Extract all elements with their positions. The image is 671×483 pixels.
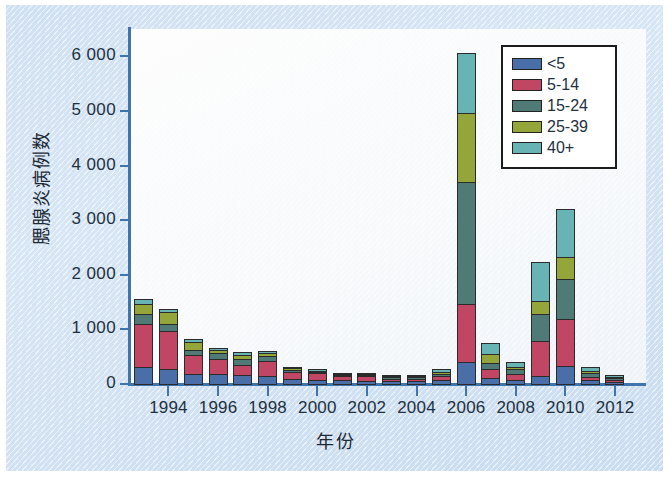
legend-item[interactable]: 5-14 bbox=[512, 75, 607, 95]
bar-segment bbox=[134, 367, 153, 385]
bar-segment bbox=[531, 341, 550, 377]
y-axis-tick bbox=[120, 383, 129, 385]
bar-stack[interactable] bbox=[134, 299, 153, 384]
bar-segment bbox=[556, 279, 575, 320]
bar-segment bbox=[209, 374, 228, 385]
bar-segment bbox=[481, 378, 500, 385]
legend-swatch-icon bbox=[512, 79, 542, 91]
bar-stack[interactable] bbox=[184, 339, 203, 384]
x-axis-title: 年份 bbox=[0, 427, 671, 453]
x-axis-tick bbox=[564, 386, 566, 396]
y-axis-tick bbox=[120, 165, 129, 167]
bar-segment bbox=[605, 382, 624, 385]
legend-swatch-icon bbox=[512, 121, 542, 133]
bar-segment bbox=[184, 355, 203, 375]
y-axis-tick bbox=[120, 328, 129, 330]
legend-item[interactable]: 15-24 bbox=[512, 96, 607, 116]
figure-root: 01 0002 0003 0004 0005 0006 000 19941996… bbox=[0, 0, 671, 483]
y-axis-tick-label: 1 000 bbox=[12, 318, 116, 338]
legend-item-label: 5-14 bbox=[547, 77, 579, 93]
bar-segment bbox=[457, 53, 476, 113]
bar-segment bbox=[209, 359, 228, 375]
y-axis-tick bbox=[120, 55, 129, 57]
chart-legend: <55-1415-2425-3940+ bbox=[501, 45, 617, 169]
y-axis-tick bbox=[120, 274, 129, 276]
bar-stack[interactable] bbox=[159, 309, 178, 384]
legend-swatch-icon bbox=[512, 142, 542, 154]
bar-segment bbox=[159, 369, 178, 385]
legend-item-label: <5 bbox=[547, 56, 565, 72]
bar-segment bbox=[556, 366, 575, 385]
y-axis-tick bbox=[120, 110, 129, 112]
bar-segment bbox=[333, 380, 352, 385]
bar-segment bbox=[357, 381, 376, 385]
bar-stack[interactable] bbox=[382, 375, 401, 384]
bar-stack[interactable] bbox=[581, 367, 600, 384]
bar-stack[interactable] bbox=[605, 375, 624, 384]
bar-segment bbox=[531, 301, 550, 315]
bar-stack[interactable] bbox=[209, 348, 228, 384]
y-axis-tick-label: 6 000 bbox=[12, 45, 116, 65]
bar-segment bbox=[184, 374, 203, 385]
bar-segment bbox=[258, 361, 277, 377]
bar-segment bbox=[556, 319, 575, 367]
bar-segment bbox=[581, 380, 600, 385]
bar-segment bbox=[233, 375, 252, 385]
x-axis-tick-label: 2012 bbox=[580, 398, 650, 418]
legend-swatch-icon bbox=[512, 100, 542, 112]
bar-stack[interactable] bbox=[233, 352, 252, 384]
bar-stack[interactable] bbox=[556, 209, 575, 384]
x-axis-tick bbox=[167, 386, 169, 396]
bar-segment bbox=[407, 381, 426, 385]
x-axis-tick bbox=[316, 386, 318, 396]
bar-segment bbox=[556, 209, 575, 258]
bar-segment bbox=[457, 182, 476, 305]
bar-stack[interactable] bbox=[357, 373, 376, 384]
y-axis-tick-label: 0 bbox=[12, 373, 116, 393]
bar-segment bbox=[556, 257, 575, 280]
bar-segment bbox=[506, 380, 525, 385]
bar-stack[interactable] bbox=[283, 367, 302, 384]
bar-segment bbox=[531, 314, 550, 342]
bar-segment bbox=[283, 379, 302, 385]
x-axis-tick bbox=[465, 386, 467, 396]
legend-item-label: 40+ bbox=[547, 140, 574, 156]
x-axis-tick bbox=[366, 386, 368, 396]
bar-segment bbox=[258, 376, 277, 385]
bar-stack[interactable] bbox=[531, 262, 550, 384]
legend-item[interactable]: 40+ bbox=[512, 138, 607, 158]
bar-segment bbox=[457, 304, 476, 363]
bar-segment bbox=[159, 331, 178, 370]
bar-stack[interactable] bbox=[432, 369, 451, 384]
bar-stack[interactable] bbox=[506, 362, 525, 384]
bar-stack[interactable] bbox=[258, 351, 277, 384]
legend-item[interactable]: <5 bbox=[512, 54, 607, 74]
bar-segment bbox=[457, 113, 476, 183]
bar-segment bbox=[382, 381, 401, 385]
legend-item-label: 25-39 bbox=[547, 119, 588, 135]
x-axis-tick bbox=[267, 386, 269, 396]
bar-segment bbox=[432, 380, 451, 385]
bar-stack[interactable] bbox=[407, 375, 426, 384]
x-axis-tick bbox=[416, 386, 418, 396]
bar-segment bbox=[308, 380, 327, 385]
y-axis-title: 腮腺炎病例数 bbox=[27, 88, 53, 288]
bar-stack[interactable] bbox=[457, 53, 476, 384]
bar-segment bbox=[457, 362, 476, 385]
bar-segment bbox=[134, 324, 153, 368]
x-axis-tick bbox=[614, 386, 616, 396]
bar-segment bbox=[531, 376, 550, 385]
x-axis-tick bbox=[515, 386, 517, 396]
bar-segment bbox=[531, 262, 550, 302]
bar-stack[interactable] bbox=[481, 343, 500, 384]
x-axis-tick bbox=[217, 386, 219, 396]
bar-stack[interactable] bbox=[333, 373, 352, 384]
y-axis-tick bbox=[120, 219, 129, 221]
legend-swatch-icon bbox=[512, 58, 542, 70]
legend-item-label: 15-24 bbox=[547, 98, 588, 114]
legend-item[interactable]: 25-39 bbox=[512, 117, 607, 137]
bar-stack[interactable] bbox=[308, 369, 327, 384]
